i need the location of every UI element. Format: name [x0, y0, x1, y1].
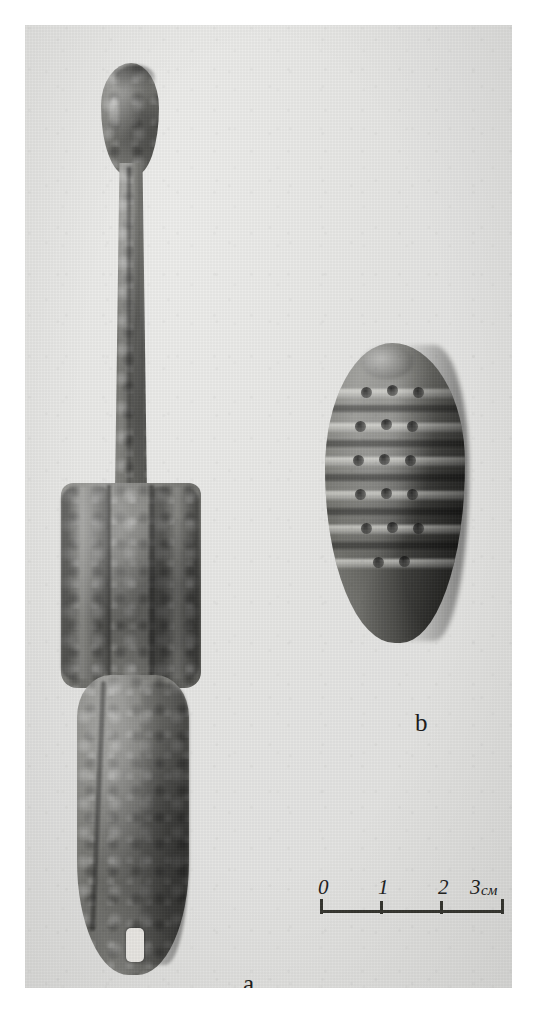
artifact-b-dot	[355, 489, 366, 500]
artifact-a	[53, 35, 268, 988]
artifact-a-ridge-right	[149, 485, 154, 685]
artifact-a-shaft-ridge	[127, 167, 131, 489]
artifact-a-shaft	[115, 163, 147, 493]
artifact-b-dot	[381, 419, 392, 430]
artifact-b-dot	[355, 421, 366, 432]
scale-bar-line	[320, 910, 504, 913]
artifact-b-dot	[353, 455, 364, 466]
artifact-b-dot	[387, 385, 398, 396]
scale-label-0: 0	[318, 875, 329, 900]
artifact-b-dot	[361, 523, 372, 534]
scale-unit-label: см	[481, 882, 497, 899]
artifact-a-wing-left	[61, 487, 107, 679]
scale-label-3: 3	[470, 875, 481, 900]
scale-label-2: 2	[438, 875, 449, 900]
scale-tick-3	[501, 899, 504, 914]
figure-label-a: a	[243, 971, 254, 988]
figure-label-b: b	[415, 710, 428, 735]
artifact-b-dot	[381, 488, 392, 499]
artifact-b-top-knob	[361, 345, 413, 379]
scale-tick-2	[440, 901, 443, 914]
artifact-a-head-shadow	[115, 65, 155, 91]
artifact-a-slot-hole	[126, 928, 144, 962]
scale-tick-0	[320, 899, 323, 914]
artifact-a-blade-shadow	[141, 683, 189, 965]
figure-plate: 0 1 2 3 см a b	[0, 0, 550, 1015]
artifact-b	[315, 335, 490, 665]
artifact-a-ridge-left	[107, 485, 111, 685]
photograph-area: 0 1 2 3 см a b	[25, 25, 512, 988]
scale-tick-1	[380, 901, 383, 914]
artifact-b-dot	[361, 387, 372, 398]
artifact-a-wing-right	[153, 487, 199, 679]
artifact-b-dot	[387, 522, 398, 533]
artifact-b-dot	[373, 557, 384, 568]
scale-bar: 0 1 2 3 см	[318, 873, 508, 925]
scale-label-1: 1	[378, 875, 389, 900]
artifact-b-dot	[379, 454, 390, 465]
artifact-a-head-highlight	[109, 97, 119, 131]
artifact-b-shadow	[399, 345, 469, 641]
